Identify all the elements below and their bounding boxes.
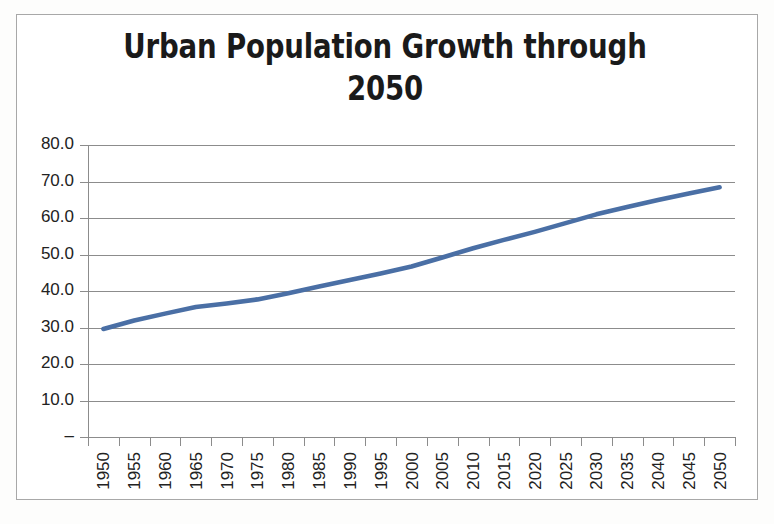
x-axis-tick-label: 2015 [495, 452, 512, 490]
x-axis-tick-label: 2010 [464, 452, 481, 490]
y-axis-tick [80, 401, 89, 402]
x-axis-tick [704, 437, 705, 446]
x-axis-tick [519, 437, 520, 446]
x-axis-tick [365, 437, 366, 446]
x-axis-tick-label: 1980 [279, 452, 296, 490]
x-axis-tick-label: 1965 [187, 452, 204, 490]
x-axis-tick-label: 2025 [557, 452, 574, 490]
x-axis-tick [643, 437, 644, 446]
x-axis-tick [612, 437, 613, 446]
y-axis-tick [80, 328, 89, 329]
y-axis-tick [80, 291, 89, 292]
x-axis-tick [550, 437, 551, 446]
y-axis-tick-label: 80.0 [18, 134, 74, 154]
x-axis-tick-label: 2040 [649, 452, 666, 490]
x-axis-tick-label: 1985 [310, 452, 327, 490]
x-axis-tick [334, 437, 335, 446]
x-axis-tick-label: 1950 [94, 452, 111, 490]
x-axis-tick-label: 2035 [618, 452, 635, 490]
x-axis-tick [458, 437, 459, 446]
chart-title-line-2: 2050 [92, 68, 678, 110]
y-axis-tick-label: 20.0 [18, 353, 74, 373]
y-axis-tick [80, 364, 89, 365]
x-axis-tick [180, 437, 181, 446]
y-axis-tick [80, 218, 89, 219]
y-axis-tick-label: 30.0 [18, 317, 74, 337]
x-axis-tick [581, 437, 582, 446]
x-axis-tick [396, 437, 397, 446]
y-axis-tick-label: 70.0 [18, 171, 74, 191]
x-axis-tick-label: 2020 [526, 452, 543, 490]
x-axis-tick [735, 437, 736, 446]
x-axis-tick [427, 437, 428, 446]
x-axis-tick [489, 437, 490, 446]
x-axis-line [88, 437, 735, 438]
x-axis-tick-label: 1990 [341, 452, 358, 490]
y-axis-tick-label: – [18, 426, 74, 446]
chart-title-line-1: Urban Population Growth through [92, 26, 678, 68]
x-axis-tick-label: 2030 [587, 452, 604, 490]
x-axis-tick [673, 437, 674, 446]
x-axis-tick-label: 1970 [218, 452, 235, 490]
x-axis-tick-label: 2005 [433, 452, 450, 490]
x-axis-tick [211, 437, 212, 446]
series-line-urban-population [103, 187, 719, 329]
x-axis-tick-label: 2050 [711, 452, 728, 490]
y-axis-tick-label: 60.0 [18, 207, 74, 227]
x-axis-tick [304, 437, 305, 446]
y-axis-tick-label: 40.0 [18, 280, 74, 300]
x-axis-tick-label: 1960 [156, 452, 173, 490]
x-axis-tick [242, 437, 243, 446]
y-axis-tick [80, 255, 89, 256]
x-axis-tick-label: 2045 [680, 452, 697, 490]
y-axis-tick [80, 145, 89, 146]
x-axis-tick [273, 437, 274, 446]
x-axis-tick-label: 1975 [248, 452, 265, 490]
x-axis-tick-label: 1995 [372, 452, 389, 490]
x-axis-tick-label: 2000 [403, 452, 420, 490]
y-axis-tick-labels: 80.070.060.050.040.030.020.010.0– [18, 0, 74, 524]
x-axis-tick [150, 437, 151, 446]
y-axis-tick [80, 182, 89, 183]
chart-title: Urban Population Growth through 2050 [92, 26, 678, 110]
y-axis-tick-label: 50.0 [18, 244, 74, 264]
series-line-chart [88, 145, 735, 437]
x-axis-tick [88, 437, 89, 446]
y-axis-tick-label: 10.0 [18, 390, 74, 410]
x-axis-tick-label: 1955 [125, 452, 142, 490]
x-axis-tick [119, 437, 120, 446]
